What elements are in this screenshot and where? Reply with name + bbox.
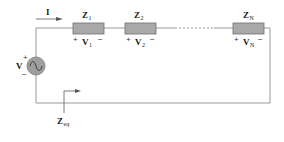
impedance-z1-box — [73, 23, 104, 34]
current-label: I — [46, 8, 50, 17]
zn-minus-sign: − — [258, 36, 263, 44]
impedance-zn-label: ZN — [243, 11, 254, 20]
current-arrow-icon — [56, 17, 63, 21]
z2-minus-sign: − — [150, 36, 155, 44]
zn-plus-sign: + — [234, 36, 239, 44]
equivalent-impedance-label: Zeq — [57, 117, 69, 126]
source-minus-sign: − — [22, 71, 27, 79]
zeq-arrow-shaft — [64, 91, 76, 113]
impedance-zn-box — [233, 23, 264, 34]
voltage-vn-label: VN — [243, 38, 254, 47]
wire-top-left — [36, 28, 73, 57]
z2-plus-sign: + — [126, 36, 131, 44]
series-circuit-diagram: I + V − Z1 + V1 − Z2 + V2 − ZN + VN − Ze… — [0, 0, 284, 142]
zeq-arrow-icon — [75, 89, 81, 93]
voltage-v1-label: V1 — [82, 38, 92, 47]
voltage-v2-label: V2 — [135, 38, 145, 47]
z1-plus-sign: + — [73, 36, 78, 44]
impedance-z1-label: Z1 — [82, 11, 92, 20]
impedance-z2-box — [125, 23, 156, 34]
impedance-z2-label: Z2 — [134, 11, 144, 20]
z1-minus-sign: − — [98, 36, 103, 44]
source-plus-sign: + — [23, 54, 28, 62]
circuit-drawing — [0, 0, 284, 142]
